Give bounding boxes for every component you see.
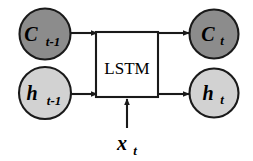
input-label-subscript: t bbox=[133, 143, 137, 158]
node-cell-state-input-label: C bbox=[24, 23, 38, 45]
node-hidden-state-input: h t-1 bbox=[19, 67, 71, 119]
diagram-canvas: LSTM C t-1 h t-1 C t h t x t bbox=[0, 0, 253, 161]
node-cell-state-input: C t-1 bbox=[20, 9, 71, 60]
lstm-block-label: LSTM bbox=[104, 59, 149, 78]
node-cell-state-input-subscript: t-1 bbox=[46, 34, 60, 49]
input-label: x bbox=[116, 132, 127, 154]
node-cell-state-output-subscript: t bbox=[220, 33, 224, 48]
node-hidden-state-output-circle bbox=[190, 69, 239, 118]
node-hidden-state-output: h t bbox=[190, 69, 239, 118]
node-cell-state-output: C t bbox=[190, 10, 239, 59]
node-hidden-state-input-label: h bbox=[26, 82, 37, 104]
node-hidden-state-output-subscript: t bbox=[220, 92, 224, 107]
input-label-group: x t bbox=[116, 132, 137, 158]
node-hidden-state-input-subscript: t-1 bbox=[47, 93, 61, 108]
lstm-diagram-figure: LSTM C t-1 h t-1 C t h t x t bbox=[0, 0, 253, 161]
node-hidden-state-output-label: h bbox=[202, 82, 213, 104]
node-cell-state-output-label: C bbox=[201, 23, 215, 45]
lstm-block: LSTM bbox=[96, 32, 158, 97]
